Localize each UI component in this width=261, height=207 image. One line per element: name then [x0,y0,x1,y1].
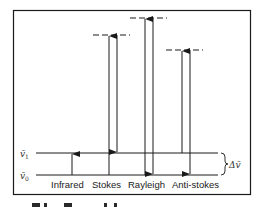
label-rayleigh: Rayleigh [128,179,165,190]
cut-off-caption [32,203,117,207]
level-v1-label: ṽ1 [20,149,29,160]
label-infrared: Infrared [51,179,84,190]
label-stokes: Stokes [92,179,121,190]
delta-brace [221,153,228,175]
delta-nu-label: Δṽ [228,160,241,170]
level-v0-label: ṽ0 [20,171,29,182]
diagram-frame [14,11,251,195]
raman-energy-level-diagram: ṽ1 ṽ0 Δṽ Infrared Stokes Rayleigh Anti-s… [0,0,261,207]
label-anti-stokes: Anti-stokes [172,179,219,190]
